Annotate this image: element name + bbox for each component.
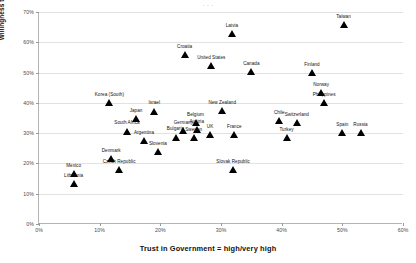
gridline-y [39,12,403,13]
scatter-chart-figure: · · · 0%10%20%30%40%50%60%70%0%10%20%30%… [0,0,416,263]
triangle-marker-icon [123,128,131,135]
triangle-marker-icon [206,131,214,138]
cropped-title-sliver: · · · [0,0,416,8]
y-tick-label: 40% [23,100,34,106]
triangle-marker-icon [140,137,148,144]
data-point-label: Switzerland [285,113,309,118]
triangle-marker-icon [308,69,316,76]
data-point-label: Norway [313,83,329,88]
triangle-marker-icon [293,119,301,126]
data-point-label: Croatia [177,45,192,50]
plot-area: 0%10%20%30%40%50%60%70%0%10%20%30%40%50%… [38,12,402,224]
data-point-label: Czech Republic [103,160,136,165]
data-point-label: UK [207,125,213,130]
triangle-marker-icon [228,30,236,37]
data-point-label: Russia [353,123,367,128]
y-tick-label: 60% [23,39,34,45]
triangle-marker-icon [247,68,255,75]
x-tick-mark [100,223,101,226]
x-tick-mark [221,223,222,226]
y-tick-label: 20% [23,160,34,166]
triangle-marker-icon [340,21,348,28]
gridline-y [39,194,403,195]
y-tick-label: 30% [23,130,34,136]
data-point-label: Bulgaria [167,127,184,132]
y-tick-mark [36,163,39,164]
data-point-label: Sweden [185,128,202,133]
x-tick-label: 10% [94,227,105,233]
y-axis-title: Willingness to pay = high/very high [0,0,5,50]
triangle-marker-icon [338,129,346,136]
gridline-y [39,133,403,134]
data-point-label: Philippines [313,93,336,98]
y-tick-mark [36,133,39,134]
x-axis-title: Trust in Government = high/very high [0,244,416,253]
data-point-label: Lithuania [64,174,83,179]
data-point-label: South Africa [114,121,139,126]
data-point-label: United States [197,56,225,61]
data-point-label: Finland [304,63,319,68]
x-tick-mark [160,223,161,226]
triangle-marker-icon [207,62,215,69]
x-tick-label: 20% [155,227,166,233]
y-tick-mark [36,12,39,13]
y-tick-mark [36,42,39,43]
data-point-label: Mexico [66,164,81,169]
triangle-marker-icon [218,107,226,114]
triangle-marker-icon [70,180,78,187]
y-tick-label: 50% [23,70,34,76]
y-tick-label: 0% [26,221,34,227]
triangle-marker-icon [150,108,158,115]
triangle-marker-icon [105,99,113,106]
y-tick-label: 70% [23,9,34,15]
x-tick-mark [403,223,404,226]
x-tick-label: 0% [35,227,43,233]
triangle-marker-icon [320,99,328,106]
x-tick-label: 50% [337,227,348,233]
y-tick-mark [36,194,39,195]
data-point-label: Denmark [102,149,121,154]
y-tick-label: 10% [23,191,34,197]
triangle-marker-icon [115,166,123,173]
data-point-label: Slovenia [149,142,167,147]
data-point-label: Belgium [187,113,204,118]
data-point-label: Austria [189,120,204,125]
data-point-label: Japan [130,109,143,114]
data-point-label: Korea (South) [95,93,124,98]
data-point-label: Israel [148,101,160,106]
x-tick-mark [282,223,283,226]
triangle-marker-icon [190,134,198,141]
x-tick-label: 60% [398,227,409,233]
data-point-label: Latvia [226,24,239,29]
x-tick-mark [342,223,343,226]
data-point-label: Argentina [134,131,154,136]
data-point-label: Canada [243,62,259,67]
data-point-label: Turkey [279,128,293,133]
triangle-marker-icon [181,51,189,58]
triangle-marker-icon [357,129,365,136]
y-tick-mark [36,103,39,104]
data-point-label: Spain [336,123,348,128]
triangle-marker-icon [154,148,162,155]
triangle-marker-icon [275,117,283,124]
gridline-y [39,73,403,74]
x-tick-label: 40% [276,227,287,233]
triangle-marker-icon [229,166,237,173]
data-point-label: Chile [274,111,285,116]
triangle-marker-icon [283,134,291,141]
data-point-label: Taiwan [336,15,351,20]
data-point-label: France [227,125,242,130]
y-tick-mark [36,73,39,74]
triangle-marker-icon [172,134,180,141]
data-point-label: Slovak Republic [216,160,250,165]
x-tick-mark [39,223,40,226]
gridline-y [39,42,403,43]
triangle-marker-icon [230,131,238,138]
data-point-label: New Zealand [208,101,236,106]
x-tick-label: 30% [216,227,227,233]
